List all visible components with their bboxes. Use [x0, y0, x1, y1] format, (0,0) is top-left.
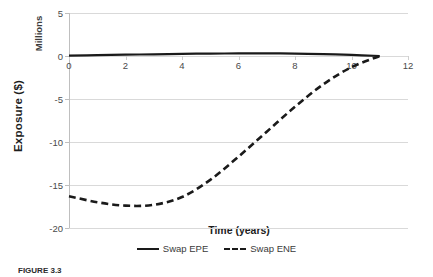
y-tick-label: -5 [55, 94, 63, 105]
y-tick-mark [65, 228, 69, 229]
x-tick-mark [408, 56, 409, 60]
legend-swatch-solid-icon [137, 244, 159, 253]
figure-container: Exposure ($) Millions Time (years) 50-5-… [0, 0, 433, 277]
legend-label-swap-epe: Swap EPE [163, 243, 208, 254]
series-line-swap-epe [69, 53, 380, 56]
y-tick-label: -10 [49, 137, 63, 148]
gridline [69, 228, 408, 229]
figure-number: FIGURE 3.3 [18, 266, 62, 275]
series-line-swap-ene [69, 56, 380, 206]
y-axis-title: Exposure ($) [12, 46, 24, 186]
series-lines [69, 13, 408, 228]
y-tick-label: 0 [58, 51, 63, 62]
y-tick-label: -20 [49, 223, 63, 234]
y-axis-units-label: Millions [33, 0, 44, 78]
legend-swatch-dashed-icon [224, 244, 246, 253]
plot-area: 50-5-10-15-20 024681012 [69, 13, 408, 228]
legend-label-swap-ene: Swap ENE [250, 243, 296, 254]
chart-legend: Swap EPE Swap ENE [0, 243, 433, 254]
figure-caption: FIGURE 3.3 [18, 266, 418, 275]
y-tick-label: -15 [49, 180, 63, 191]
legend-item-swap-epe: Swap EPE [137, 243, 208, 254]
y-tick-label: 5 [58, 8, 63, 19]
legend-item-swap-ene: Swap ENE [224, 243, 296, 254]
